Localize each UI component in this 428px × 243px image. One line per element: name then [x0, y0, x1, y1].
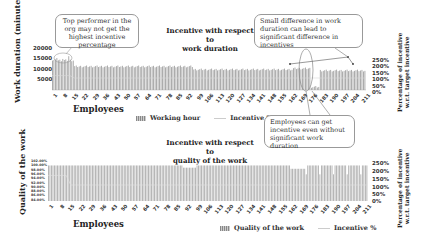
quality-bar — [279, 165, 280, 201]
quality-bar — [310, 165, 311, 201]
line-swatch — [214, 118, 226, 119]
work-bar — [357, 70, 358, 90]
work-bar — [283, 69, 284, 90]
quality-bar — [236, 165, 237, 201]
work-bar — [223, 70, 224, 90]
y-tick: 84.00% — [31, 198, 45, 202]
work-bar — [161, 67, 162, 90]
quality-bar — [360, 174, 361, 201]
bottom-chart-title: Incentive with respect to quality of the… — [165, 138, 255, 165]
work-bar — [82, 67, 83, 90]
quality-bar — [118, 165, 119, 201]
work-bar — [293, 68, 294, 90]
quality-bar — [137, 165, 138, 201]
top-right-tick: 100% — [372, 76, 389, 82]
work-bar — [365, 71, 366, 90]
work-bar — [260, 70, 261, 90]
quality-bar — [362, 165, 363, 201]
work-bar — [286, 70, 287, 90]
quality-bar — [345, 165, 346, 201]
quality-bar — [154, 165, 155, 201]
bottom-title-line2: quality of the work — [165, 156, 255, 165]
work-bar — [58, 60, 59, 90]
bottom-right-tick: 100% — [372, 184, 389, 190]
work-bar — [214, 70, 215, 91]
quality-bar — [350, 165, 351, 201]
quality-bar — [248, 165, 249, 201]
quality-bar — [188, 168, 189, 201]
work-bar — [332, 71, 333, 90]
bar-swatch — [136, 116, 146, 121]
legend-working-hour: Working hour — [150, 114, 200, 122]
callout-no-work-duration: Employees can get incentive even without… — [264, 115, 355, 148]
work-bar — [213, 70, 214, 90]
bottom-legend: Quality of the work Incentive % — [220, 224, 376, 232]
work-bar — [269, 70, 270, 90]
quality-bar — [253, 165, 254, 201]
quality-bar — [254, 165, 255, 201]
quality-bar — [365, 165, 366, 201]
quality-bar — [177, 165, 178, 201]
work-bar — [353, 71, 354, 90]
quality-bar — [63, 165, 64, 201]
work-bar — [119, 67, 120, 90]
quality-bar — [48, 165, 49, 201]
quality-bar — [321, 165, 322, 201]
quality-bar — [215, 165, 216, 201]
quality-bar — [74, 165, 75, 201]
work-bar — [284, 69, 285, 90]
work-bar — [59, 60, 60, 90]
work-bar — [311, 88, 312, 90]
work-bar — [363, 71, 364, 90]
work-bar — [242, 69, 243, 90]
work-bar — [336, 70, 337, 90]
work-bar — [290, 70, 291, 90]
work-bar — [345, 70, 346, 90]
quality-bar — [130, 165, 131, 201]
quality-bar — [112, 165, 113, 201]
work-bar — [176, 67, 177, 90]
work-bar — [165, 67, 166, 90]
quality-bar — [56, 165, 57, 201]
work-bar — [360, 71, 361, 90]
work-bar — [62, 59, 63, 90]
callout-top-performer: Top performer in the org may not get the… — [55, 14, 139, 48]
work-bar — [268, 69, 269, 90]
quality-bar — [333, 174, 334, 201]
quality-bar — [341, 165, 342, 201]
quality-bar — [145, 165, 146, 201]
work-bar — [256, 70, 257, 91]
work-bar — [240, 70, 241, 90]
quality-bar — [109, 165, 110, 201]
quality-bar — [89, 165, 90, 201]
quality-bar — [206, 165, 207, 201]
quality-bar — [309, 165, 310, 201]
work-bar — [298, 68, 299, 90]
quality-bar — [342, 165, 343, 201]
work-bar — [109, 67, 110, 90]
work-bar — [140, 67, 141, 90]
top-right-tick: 0% — [372, 89, 381, 95]
work-bar — [53, 60, 54, 90]
quality-bar — [200, 165, 201, 201]
work-bar — [88, 67, 89, 90]
quality-bar — [83, 165, 84, 201]
quality-bar — [339, 165, 340, 201]
quality-bar — [195, 168, 196, 201]
work-bar — [77, 67, 78, 90]
quality-bar — [62, 165, 63, 201]
work-bar — [271, 70, 272, 90]
bottom-y-axis-label: Quality of the work — [17, 129, 27, 215]
work-bar — [199, 69, 200, 90]
quality-bar — [227, 165, 228, 201]
quality-bar — [351, 165, 352, 201]
quality-bar — [51, 165, 52, 201]
quality-bar — [241, 165, 242, 201]
quality-bar — [175, 165, 176, 201]
quality-bar — [81, 165, 82, 201]
work-bar — [229, 70, 230, 90]
work-bar — [362, 70, 363, 90]
quality-bar — [66, 165, 67, 201]
work-bar — [220, 69, 221, 90]
quality-bar — [336, 165, 337, 201]
